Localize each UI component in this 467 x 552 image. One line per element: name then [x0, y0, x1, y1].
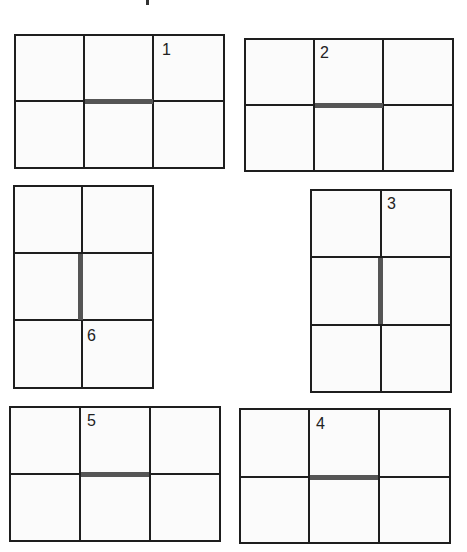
highlighted-segment — [81, 472, 149, 477]
cropped-glyph — [146, 0, 149, 5]
grid-line — [311, 324, 451, 326]
figure-label: 2 — [320, 45, 329, 61]
grid-line — [14, 252, 153, 254]
grid-line — [14, 319, 153, 321]
figure-label: 1 — [162, 42, 171, 58]
grid-frame — [13, 185, 154, 389]
highlighted-segment — [85, 99, 153, 104]
highlighted-segment — [378, 258, 383, 324]
grid-line — [149, 408, 151, 542]
highlighted-segment — [315, 103, 383, 108]
highlighted-segment — [78, 254, 83, 320]
figure-label: 4 — [316, 416, 325, 432]
figure-label: 6 — [87, 328, 96, 344]
highlighted-segment — [310, 475, 378, 480]
figure-label: 3 — [387, 196, 396, 212]
figure-label: 5 — [87, 413, 96, 429]
